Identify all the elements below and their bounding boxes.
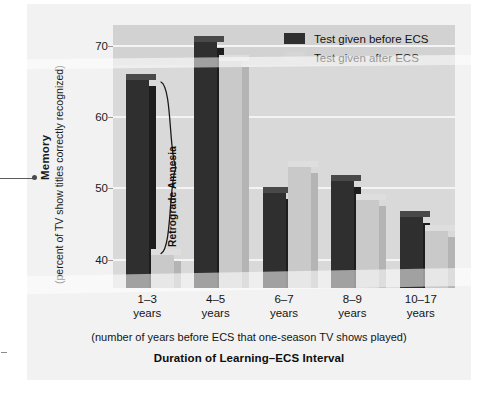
legend-swatch-icon-after-ecs [284,52,305,63]
bar-front-face [356,200,379,288]
figure-root: Memory (percent of TV show titles correc… [0,0,498,396]
bar-after-ecs-group-3 [288,167,311,288]
x-axis-title: Duration of Learning–ECS Interval [27,352,471,364]
bar-side-face [242,67,249,288]
x-axis-tick-labels: 1–3years4–5years6–7years8–9years10–17yea… [113,292,455,326]
bar-front-face [400,217,423,288]
retrograde-amnesia-annotation: Retrograde Amnesia [156,80,200,256]
y-axis-title-group: Memory (percent of TV show titles correc… [46,18,86,288]
bar-side-face [311,173,318,288]
y-tick-mark-50 [107,188,113,189]
bar-front-face [263,193,286,288]
legend-label-after-ecs: Test given after ECS [314,52,419,64]
bar-after-ecs-group-2 [219,61,242,288]
bar-side-face [174,261,181,288]
legend-item-after-ecs: Test given after ECS [284,48,449,67]
x-tick-label-line: 8–9 [318,292,386,306]
x-tick-label-group-2: 4–5years [181,292,249,320]
x-axis-subtitle: (number of years before ECS that one-sea… [27,331,471,343]
leader-tick-bottom [1,352,7,353]
bar-front-face [288,167,311,288]
x-tick-label-group-1: 1–3years [113,292,181,320]
bar-after-ecs-group-5 [425,231,448,288]
bar-before-ecs-group-3 [263,193,286,288]
x-tick-label-line: 4–5 [181,292,249,306]
plot-area: Test given before ECS Test given after E… [113,25,455,288]
bar-side-face [379,206,386,288]
bar-before-ecs-group-4 [331,181,354,288]
legend: Test given before ECS Test given after E… [284,29,449,67]
y-tick-mark-40 [107,260,113,261]
bar-before-ecs-group-1 [126,80,149,288]
x-tick-label-group-3: 6–7years [250,292,318,320]
bar-front-face [425,231,448,288]
x-tick-label-line: 1–3 [113,292,181,306]
y-axis-title: Memory [39,135,51,180]
leader-line [0,178,34,179]
bar-after-ecs-group-4 [356,200,379,288]
bar-before-ecs-group-5 [400,217,423,288]
y-tick-mark-70 [107,46,113,47]
y-axis-subtitle: (percent of TV show titles correctly rec… [53,65,65,284]
y-axis-tick-labels: 40506070 [84,0,108,376]
x-tick-label-line: years [250,306,318,320]
legend-item-before-ecs: Test given before ECS [284,29,449,48]
y-tick-mark-60 [107,117,113,118]
x-tick-label-line: 6–7 [250,292,318,306]
x-tick-label-line: years [113,306,181,320]
brace-icon [156,80,200,256]
x-tick-label-line: 10–17 [387,292,455,306]
x-tick-label-line: years [181,306,249,320]
bar-front-face [219,61,242,288]
retrograde-amnesia-label: Retrograde Amnesia [167,146,178,247]
x-tick-label-group-4: 8–9years [318,292,386,320]
bar-after-ecs-group-1 [151,255,174,288]
bar-side-face [448,237,455,288]
leader-dot [32,175,37,180]
x-tick-label-line: years [318,306,386,320]
bar-front-face [151,255,174,288]
bar-front-face [331,181,354,288]
x-tick-label-group-5: 10–17years [387,292,455,320]
x-tick-label-line: years [387,306,455,320]
legend-swatch-icon-before-ecs [284,33,305,44]
legend-label-before-ecs: Test given before ECS [314,33,428,45]
bar-front-face [126,80,149,288]
